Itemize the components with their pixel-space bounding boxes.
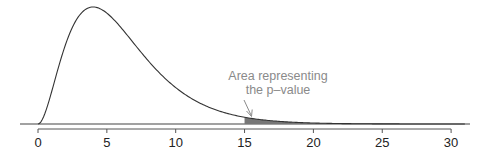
x-tick-label: 20 <box>306 135 320 150</box>
x-tick-label: 30 <box>444 135 458 150</box>
x-tick-label: 15 <box>237 135 251 150</box>
x-tick-label: 25 <box>375 135 389 150</box>
annotation-line-1: Area representing <box>228 69 327 83</box>
x-axis: 051015202530 <box>34 129 458 150</box>
density-curve <box>38 7 465 124</box>
chi-square-density-chart: 051015202530 Area representing the p–val… <box>0 0 490 160</box>
annotation-line-2: the p–value <box>246 83 311 97</box>
annotation-arrow <box>244 100 252 117</box>
x-tick-label: 0 <box>34 135 41 150</box>
x-tick-label: 10 <box>168 135 182 150</box>
x-tick-label: 5 <box>103 135 110 150</box>
